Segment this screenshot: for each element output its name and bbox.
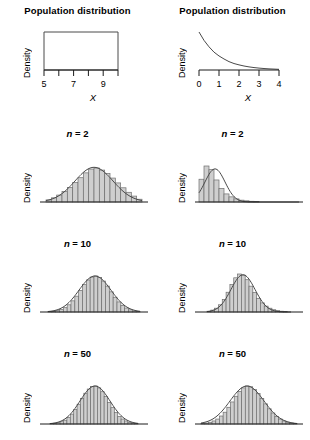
xtick-7: 7	[71, 79, 76, 89]
histogram-bar	[108, 402, 111, 424]
histogram-bar	[94, 168, 99, 202]
histogram-bar	[109, 292, 113, 312]
y-axis-label-exp-n10: Density	[177, 265, 187, 313]
xtick-2: 2	[236, 79, 241, 89]
histogram-bar	[86, 280, 90, 312]
x-axis-exp-pop	[199, 70, 279, 76]
panel-label-exp-n50: n = 50	[155, 348, 310, 359]
histogram-bar	[204, 166, 209, 202]
histogram-bar	[104, 397, 107, 424]
histogram-bar	[78, 178, 83, 202]
xtick-9: 9	[101, 79, 106, 89]
histogram-bar	[245, 280, 249, 312]
histogram-bar	[224, 194, 229, 202]
histogram-bar	[79, 290, 83, 312]
histogram-bar	[77, 404, 80, 424]
histogram-bar	[75, 296, 79, 312]
histogram-bar	[249, 286, 253, 312]
histogram-bar	[253, 389, 257, 424]
y-axis-label-exp-n2: Density	[177, 155, 187, 203]
histogram-bar	[70, 414, 73, 424]
plot-uniform-n2	[38, 150, 150, 208]
histogram-bar	[117, 302, 121, 312]
panel-title-population-exponential: Population distribution	[155, 5, 310, 16]
histogram-bar	[83, 285, 87, 312]
xtick-5: 5	[41, 79, 46, 89]
histogram-bar	[67, 187, 72, 202]
x-axis-label-uniform-pop: X	[38, 92, 148, 103]
histogram-bar	[121, 419, 124, 424]
plot-exponential-n50	[193, 372, 305, 430]
n-symbol: n	[64, 238, 70, 249]
histogram-bar	[67, 418, 70, 424]
histogram-bar	[245, 386, 249, 424]
histogram-bar	[214, 180, 219, 202]
n-value: = 50	[227, 348, 246, 359]
histogram-bar	[73, 183, 78, 202]
histogram-bar	[64, 420, 67, 424]
histogram-bar	[114, 413, 117, 424]
plot-population-exponential: 0 1 2 3 4	[193, 28, 305, 96]
histogram-bar	[267, 409, 271, 424]
histogram-bars	[199, 166, 259, 202]
histogram-bar	[238, 391, 242, 424]
histogram-bar	[74, 410, 77, 424]
y-axis-label-exp-n50: Density	[177, 375, 187, 423]
histogram-bar	[87, 389, 90, 424]
plot-exponential-n2	[193, 150, 305, 208]
histogram-bar	[94, 276, 98, 312]
n-value: = 2	[230, 128, 243, 139]
histogram-bar	[219, 188, 224, 202]
histogram-bar	[99, 170, 104, 202]
histogram-bar	[106, 286, 110, 312]
histogram-bar	[256, 394, 260, 424]
column-exponential: Population distribution Density 0 1 2 3 …	[155, 0, 310, 440]
histogram-bar	[275, 416, 279, 424]
n-value: = 50	[72, 348, 91, 359]
histogram-bar	[241, 275, 245, 312]
histogram-bar	[249, 387, 253, 424]
panel-label-uniform-n50: n = 50	[0, 348, 155, 359]
uniform-density-rect	[44, 32, 118, 70]
histogram-bar	[102, 281, 106, 312]
n-symbol: n	[219, 238, 225, 249]
exponential-density-curve	[199, 32, 279, 69]
xtick-4: 4	[276, 79, 281, 89]
histogram-bar	[113, 297, 117, 312]
histogram-bar	[199, 179, 204, 202]
histogram-bars	[46, 168, 142, 202]
histogram-bar	[231, 402, 235, 424]
histogram-bar	[91, 386, 94, 424]
y-axis-label-uniform-n50: Density	[22, 375, 32, 423]
histogram-bar	[253, 293, 257, 312]
histogram-bar	[118, 416, 121, 424]
histogram-bar	[71, 301, 75, 312]
histogram-bar	[83, 173, 88, 202]
n-symbol: n	[222, 128, 228, 139]
histogram-bar	[260, 399, 264, 424]
panel-label-uniform-n2: n = 2	[0, 128, 155, 139]
y-axis-label-uniform-n2: Density	[22, 155, 32, 203]
histogram-bar	[271, 413, 275, 424]
n-value: = 2	[75, 128, 88, 139]
histogram-bar	[84, 393, 87, 424]
x-axis-uniform-pop	[44, 70, 118, 76]
n-symbol: n	[64, 348, 70, 359]
histogram-bar	[125, 308, 129, 312]
panel-label-uniform-n10: n = 10	[0, 238, 155, 249]
histogram-bar	[209, 170, 214, 202]
plot-population-uniform: 5 7 9	[38, 28, 148, 96]
histogram-bar	[110, 178, 115, 202]
n-value: = 10	[72, 238, 91, 249]
panel-label-exp-n2: n = 2	[155, 128, 310, 139]
xtick-1: 1	[216, 79, 221, 89]
histogram-bar	[223, 412, 227, 424]
histogram-bar	[98, 277, 102, 312]
histogram-bar	[264, 404, 268, 424]
plot-exponential-n10	[193, 260, 305, 318]
histogram-bars	[201, 386, 297, 424]
n-value: = 10	[227, 238, 246, 249]
histogram-bar	[234, 396, 238, 424]
histogram-bar	[97, 388, 100, 424]
plot-uniform-n50	[38, 372, 150, 430]
